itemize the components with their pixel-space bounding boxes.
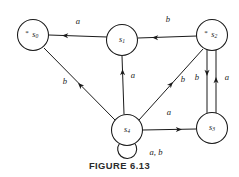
transition-s1-s0 — [49, 33, 107, 38]
transition-s4-s0 — [44, 48, 115, 120]
state-node-s2[interactable]: s2* — [197, 20, 228, 51]
state-node-s3[interactable]: s3 — [197, 113, 228, 144]
transition-line — [49, 35, 107, 37]
transition-label: b — [181, 74, 186, 84]
transition-label: b — [63, 76, 68, 86]
transition-line — [138, 36, 197, 38]
self-loop-label: a, b — [150, 147, 164, 157]
state-diagram: s0*s1s2*s3s4 ababbabaa, b — [0, 0, 239, 177]
transition-s2-s1 — [138, 35, 197, 40]
transition-s4-s1 — [120, 56, 125, 114]
transition-label: b — [166, 14, 171, 24]
transition-label: a — [167, 107, 171, 117]
transition-line — [143, 129, 196, 130]
state-node-s1[interactable]: s1 — [107, 25, 138, 56]
transition-label: a — [131, 70, 135, 80]
accepting-state-marker: * — [25, 29, 29, 37]
state-node-s0[interactable]: s0* — [18, 20, 49, 51]
accepting-state-marker: * — [204, 29, 208, 37]
transition-label: a — [76, 16, 80, 26]
transition-line — [122, 56, 124, 114]
transition-s3-s2 — [214, 50, 219, 114]
transition-s2-s3 — [205, 50, 210, 114]
state-node-s4[interactable]: s4 — [112, 115, 143, 146]
transition-label: b — [195, 72, 200, 82]
transition-label: a — [225, 72, 229, 82]
transition-s4-s3 — [143, 127, 196, 132]
figure-container: s0*s1s2*s3s4 ababbabaa, b FIGURE 6.13 — [0, 0, 239, 177]
figure-caption: FIGURE 6.13 — [0, 160, 239, 171]
